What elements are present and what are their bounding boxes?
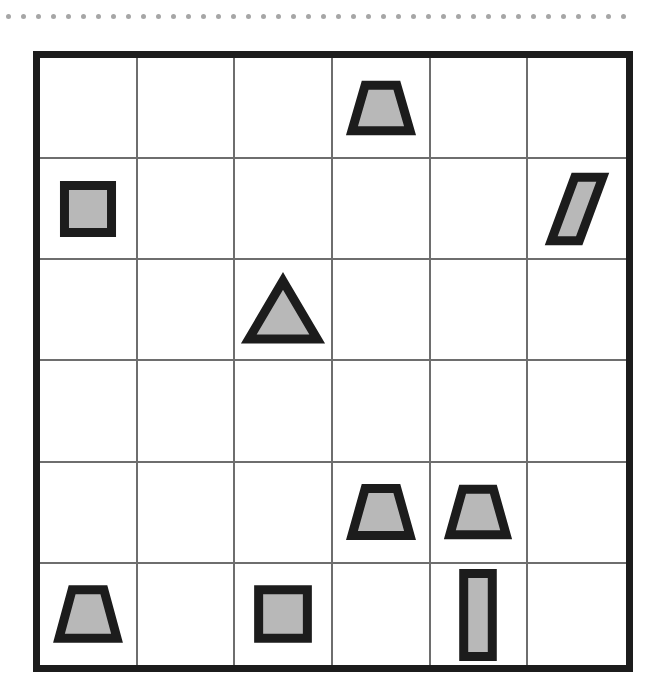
- grid-cell-r6-c5[interactable]: [431, 564, 529, 665]
- grid-cell-r3-c4[interactable]: [333, 260, 431, 361]
- shape-outline: [59, 590, 117, 639]
- grid-cell-r6-c1[interactable]: [40, 564, 138, 665]
- shape-rectangle[interactable]: [461, 570, 495, 660]
- rule-dot: [6, 14, 11, 19]
- rule-dot: [621, 14, 626, 19]
- grid-cell-r3-c3[interactable]: [235, 260, 333, 361]
- rule-dot: [366, 14, 371, 19]
- grid-cell-r2-c1[interactable]: [40, 159, 138, 260]
- dotted-separator: [0, 11, 662, 21]
- grid-cell-r1-c5[interactable]: [431, 58, 529, 159]
- grid-cell-r3-c6[interactable]: [528, 260, 626, 361]
- shape-grid: [40, 58, 626, 665]
- rule-dot: [141, 14, 146, 19]
- grid-cell-r2-c3[interactable]: [235, 159, 333, 260]
- rule-dot: [246, 14, 251, 19]
- rule-dot: [501, 14, 506, 19]
- shape-parallelogram[interactable]: [549, 173, 605, 245]
- grid-cell-r4-c1[interactable]: [40, 361, 138, 462]
- rule-dot: [261, 14, 266, 19]
- rule-dot: [96, 14, 101, 19]
- shape-square[interactable]: [60, 181, 116, 237]
- rule-dot: [576, 14, 581, 19]
- rule-dot: [306, 14, 311, 19]
- rule-dot: [486, 14, 491, 19]
- grid-cell-r3-c1[interactable]: [40, 260, 138, 361]
- rule-dot: [111, 14, 116, 19]
- shape-outline: [352, 489, 410, 536]
- rule-dot: [126, 14, 131, 19]
- rule-dot: [66, 14, 71, 19]
- grid-cell-r6-c2[interactable]: [138, 564, 236, 665]
- grid-cell-r1-c6[interactable]: [528, 58, 626, 159]
- grid-cell-r1-c2[interactable]: [138, 58, 236, 159]
- rule-dot: [201, 14, 206, 19]
- rule-dot: [351, 14, 356, 19]
- grid-cell-r4-c6[interactable]: [528, 361, 626, 462]
- rule-dot: [321, 14, 326, 19]
- grid-cell-r2-c5[interactable]: [431, 159, 529, 260]
- grid-cell-r3-c5[interactable]: [431, 260, 529, 361]
- rule-dot: [186, 14, 191, 19]
- shape-trapezoid[interactable]: [446, 485, 510, 539]
- rule-dot: [21, 14, 26, 19]
- shape-outline: [464, 573, 493, 656]
- shape-trapezoid[interactable]: [55, 585, 121, 643]
- shape-trapezoid[interactable]: [348, 484, 414, 540]
- rule-dot: [51, 14, 56, 19]
- rule-dot: [591, 14, 596, 19]
- rule-dot: [426, 14, 431, 19]
- rule-dot: [231, 14, 236, 19]
- rule-dot: [291, 14, 296, 19]
- grid-cell-r5-c1[interactable]: [40, 463, 138, 564]
- rule-dot: [441, 14, 446, 19]
- rule-dot: [336, 14, 341, 19]
- grid-cell-r5-c2[interactable]: [138, 463, 236, 564]
- shape-square[interactable]: [254, 585, 312, 643]
- shape-outline: [551, 177, 603, 240]
- shape-outline: [259, 590, 308, 639]
- grid-cell-r4-c2[interactable]: [138, 361, 236, 462]
- shape-trapezoid[interactable]: [348, 81, 414, 135]
- grid-cell-r4-c3[interactable]: [235, 361, 333, 462]
- rule-dot: [456, 14, 461, 19]
- rule-dot: [471, 14, 476, 19]
- rule-dot: [516, 14, 521, 19]
- shape-outline: [352, 85, 410, 130]
- grid-cell-r5-c4[interactable]: [333, 463, 431, 564]
- grid-cell-r3-c2[interactable]: [138, 260, 236, 361]
- shape-outline: [249, 281, 317, 339]
- grid-cell-r1-c1[interactable]: [40, 58, 138, 159]
- grid-cell-r2-c4[interactable]: [333, 159, 431, 260]
- rule-dot: [606, 14, 611, 19]
- grid-cell-r1-c3[interactable]: [235, 58, 333, 159]
- grid-cell-r2-c6[interactable]: [528, 159, 626, 260]
- shape-grid-frame: [33, 51, 633, 672]
- rule-dot: [396, 14, 401, 19]
- rule-dot: [171, 14, 176, 19]
- rule-dot: [276, 14, 281, 19]
- rule-dot: [381, 14, 386, 19]
- shape-outline: [64, 185, 111, 232]
- rule-dot: [411, 14, 416, 19]
- grid-cell-r5-c3[interactable]: [235, 463, 333, 564]
- grid-cell-r4-c5[interactable]: [431, 361, 529, 462]
- grid-cell-r6-c3[interactable]: [235, 564, 333, 665]
- rule-dot: [531, 14, 536, 19]
- shape-triangle[interactable]: [245, 277, 321, 343]
- rule-dot: [81, 14, 86, 19]
- rule-dot: [546, 14, 551, 19]
- rule-dot: [156, 14, 161, 19]
- grid-cell-r6-c4[interactable]: [333, 564, 431, 665]
- grid-cell-r1-c4[interactable]: [333, 58, 431, 159]
- rule-dot: [216, 14, 221, 19]
- shape-outline: [450, 490, 506, 535]
- rule-dot: [561, 14, 566, 19]
- grid-cell-r5-c5[interactable]: [431, 463, 529, 564]
- rule-dot: [36, 14, 41, 19]
- grid-cell-r2-c2[interactable]: [138, 159, 236, 260]
- grid-cell-r5-c6[interactable]: [528, 463, 626, 564]
- grid-cell-r4-c4[interactable]: [333, 361, 431, 462]
- grid-cell-r6-c6[interactable]: [528, 564, 626, 665]
